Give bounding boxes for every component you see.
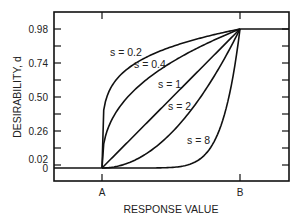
series-label-s1: s = 1 xyxy=(158,78,181,90)
y-axis-title: DESIRABILITY, d xyxy=(11,56,23,138)
x-axis-title: RESPONSE VALUE xyxy=(124,203,219,215)
x-tick-label-a: A xyxy=(99,187,106,198)
y-tick-label-0: 0 xyxy=(42,163,48,174)
series-label-s2: s = 2 xyxy=(168,100,191,112)
plot-frame xyxy=(54,12,289,181)
series-label-s02: s = 0.2 xyxy=(110,46,142,58)
y-ticks-left xyxy=(54,29,61,165)
series-label-s8: s = 8 xyxy=(187,134,210,146)
y-tick-label-050: 0.50 xyxy=(29,92,49,103)
y-ticks-right xyxy=(282,29,289,165)
y-tick-label-098: 0.98 xyxy=(29,24,49,35)
desirability-chart: 0.98 0.74 0.50 0.26 0.02 0 A B RESPONSE … xyxy=(0,0,302,219)
series-label-s04: s = 0.4 xyxy=(134,58,166,70)
x-tick-label-b: B xyxy=(237,187,244,198)
y-tick-label-074: 0.74 xyxy=(29,58,49,69)
y-tick-label-026: 0.26 xyxy=(29,126,49,137)
